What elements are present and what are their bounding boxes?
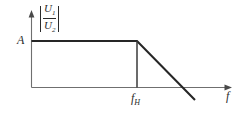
denominator-subscript: 2: [52, 26, 56, 34]
x-axis-label: f: [226, 90, 229, 102]
frequency-response-figure: U1 U2 A fH f: [0, 0, 245, 116]
y-axis-arrowhead: [29, 10, 35, 18]
x-axis-tick-label-cutoff: fH: [131, 92, 140, 107]
numerator-subscript: 1: [52, 9, 56, 17]
absolute-value-bar-right: [58, 6, 59, 32]
denominator-symbol: U: [44, 19, 52, 31]
magnitude-response-curve: [32, 41, 196, 100]
numerator-symbol: U: [44, 2, 52, 14]
fraction-numerator: U1: [43, 3, 56, 17]
ratio-fraction: U1 U2: [43, 3, 56, 34]
y-axis-label: U1 U2: [38, 3, 61, 34]
fraction-denominator: U2: [43, 20, 56, 34]
plot-canvas: [0, 0, 245, 116]
y-axis-tick-label-a: A: [17, 34, 24, 46]
cutoff-subscript: H: [134, 98, 140, 107]
absolute-value-bar-left: [40, 6, 41, 32]
